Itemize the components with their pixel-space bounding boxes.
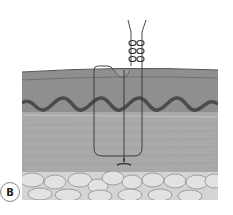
skin-suture-diagram: B	[0, 0, 233, 215]
skin-cross-section	[0, 0, 233, 215]
panel-label: B	[0, 182, 20, 202]
